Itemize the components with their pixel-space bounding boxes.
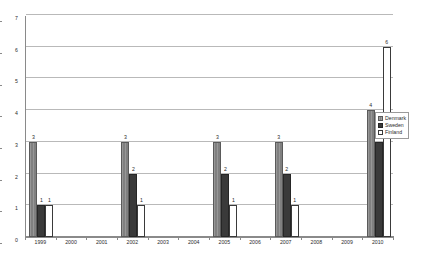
bar-slot: 3	[121, 16, 129, 237]
x-axis-tick-label: 2005	[219, 240, 231, 245]
bar-slot	[107, 16, 115, 237]
bar-value-label: 6	[385, 40, 388, 45]
bar-value-label: 1	[40, 198, 43, 203]
legend-label: Sweden	[385, 123, 404, 128]
legend-label: Finland	[385, 130, 402, 135]
bar-value-label: 4	[369, 103, 372, 108]
bar-value-label: 1	[293, 198, 296, 203]
bar-finland-1999: 1	[45, 205, 53, 237]
bar-group	[302, 16, 333, 237]
x-axis-tick-mark	[332, 236, 333, 240]
bar-group: 321	[118, 16, 149, 237]
bar-value-label: 1	[232, 198, 235, 203]
bar-slot	[260, 16, 268, 237]
bar-slot: 3	[275, 16, 283, 237]
x-axis-tick-mark	[240, 236, 241, 240]
bar-slot	[91, 16, 99, 237]
x-axis-tick-label: 2006	[249, 240, 261, 245]
bar-slot	[305, 16, 313, 237]
legend-label: Denmark	[385, 116, 406, 121]
x-axis-tick-mark	[301, 236, 302, 240]
bar-value-label: 1	[48, 198, 51, 203]
bar-group	[149, 16, 180, 237]
chart-legend: DenmarkSwedenFinland	[375, 112, 409, 139]
bars-layer: 311321321321436	[26, 16, 393, 237]
bar-slot: 2	[129, 16, 137, 237]
bar-slot	[344, 16, 352, 237]
x-axis-tick-mark	[393, 236, 394, 240]
x-axis-tick-label: 2008	[311, 240, 323, 245]
y-axis-tick-mark	[0, 53, 2, 54]
bar-finland-2002: 1	[137, 205, 145, 237]
y-axis-tick-mark	[0, 148, 2, 149]
bar-slot	[99, 16, 107, 237]
bar-value-label: 2	[285, 167, 288, 172]
bar-slot	[68, 16, 76, 237]
bar-value-label: 2	[132, 167, 135, 172]
bar-slot: 3	[213, 16, 221, 237]
x-axis-tick-label: 2009	[341, 240, 353, 245]
bar-sweden-2010: 3	[375, 142, 383, 237]
bar-denmark-1999: 3	[29, 142, 37, 237]
x-axis-tick-label: 2003	[157, 240, 169, 245]
x-axis-tick-mark	[25, 236, 26, 240]
bar-finland-2005: 1	[229, 205, 237, 237]
legend-swatch-icon	[378, 130, 383, 135]
bar-sweden-2007: 2	[283, 174, 291, 237]
y-axis-tick-mark	[0, 21, 2, 22]
bar-chart: 01234567 311321321321436 199920002001200…	[0, 0, 423, 263]
y-axis-tick-mark	[0, 243, 2, 244]
x-axis-tick-label: 2002	[127, 240, 139, 245]
legend-item-denmark[interactable]: Denmark	[378, 115, 406, 122]
bar-slot: 2	[221, 16, 229, 237]
x-axis-tick-label: 2004	[188, 240, 200, 245]
bar-value-label: 1	[140, 198, 143, 203]
y-axis-tick-mark	[0, 180, 2, 181]
bar-slot	[152, 16, 160, 237]
bar-slot: 1	[137, 16, 145, 237]
x-axis-tick-mark	[178, 236, 179, 240]
x-axis-tick-label: 2010	[372, 240, 384, 245]
bar-slot: 3	[29, 16, 37, 237]
x-axis-tick-label: 2000	[65, 240, 77, 245]
bar-slot: 2	[283, 16, 291, 237]
x-axis-tick-mark	[56, 236, 57, 240]
legend-swatch-icon	[378, 116, 383, 121]
bar-slot	[199, 16, 207, 237]
x-axis-tick-mark	[86, 236, 87, 240]
bar-sweden-2002: 2	[129, 174, 137, 237]
legend-swatch-icon	[378, 123, 383, 128]
legend-item-finland[interactable]: Finland	[378, 129, 406, 136]
bar-slot	[252, 16, 260, 237]
bar-denmark-2002: 3	[121, 142, 129, 237]
bar-group	[241, 16, 272, 237]
bar-group	[333, 16, 364, 237]
plot-area: 311321321321436	[25, 16, 393, 238]
x-axis-tick-label: 1999	[35, 240, 47, 245]
bar-slot	[336, 16, 344, 237]
bar-sweden-1999: 1	[37, 205, 45, 237]
bar-slot: 1	[37, 16, 45, 237]
y-axis-tick-mark	[0, 116, 2, 117]
x-axis-tick-label: 2007	[280, 240, 292, 245]
bar-slot: 1	[229, 16, 237, 237]
bar-value-label: 3	[216, 135, 219, 140]
bar-slot	[321, 16, 329, 237]
y-axis-tick-mark	[0, 85, 2, 86]
bar-slot	[244, 16, 252, 237]
y-axis-tick-mark	[0, 211, 2, 212]
bar-value-label: 2	[224, 167, 227, 172]
bar-slot	[313, 16, 321, 237]
bar-group	[57, 16, 88, 237]
legend-item-sweden[interactable]: Sweden	[378, 122, 406, 129]
bar-slot	[60, 16, 68, 237]
bar-slot: 1	[45, 16, 53, 237]
bar-slot	[191, 16, 199, 237]
bar-denmark-2010: 4	[367, 110, 375, 237]
bar-value-label: 3	[277, 135, 280, 140]
bar-slot	[160, 16, 168, 237]
bar-finland-2010: 6	[383, 47, 391, 237]
bar-value-label: 3	[32, 135, 35, 140]
bar-finland-2007: 1	[291, 205, 299, 237]
x-axis-tick-label: 2001	[96, 240, 108, 245]
